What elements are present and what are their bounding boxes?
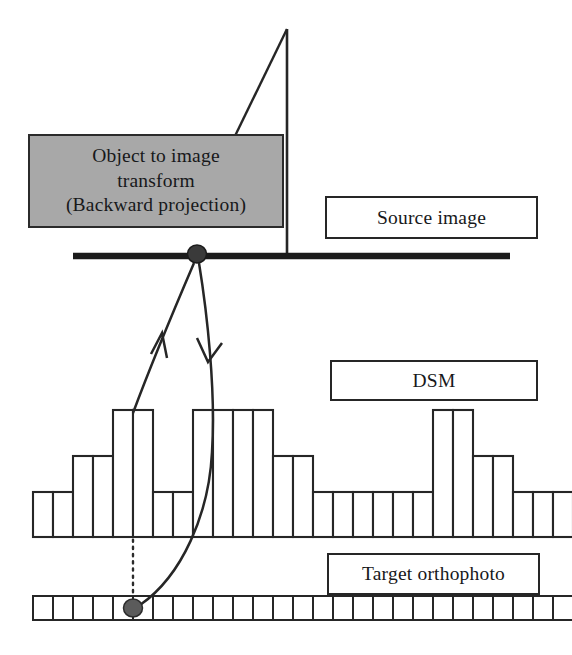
dsm-bar [133,410,153,537]
dsm-bar [113,410,133,537]
dsm-bar [73,456,93,537]
transform-box-line-2: transform [117,169,195,194]
cone-edge-line [235,29,287,136]
perspective-center-node [188,245,207,263]
dsm-bar [273,456,293,537]
orthophoto-cell [53,596,73,620]
dsm-bar [533,492,553,537]
orthophoto-cell [293,596,313,620]
orthophoto-cell [473,596,493,620]
orthophoto-cell [313,596,333,620]
dsm-bar [453,410,473,537]
dsm-bar [233,410,253,537]
dsm-bar [173,492,193,537]
orthophoto-cell [173,596,193,620]
dsm-bar [513,492,533,537]
orthophoto-cell [413,596,433,620]
source-image-label: Source image [377,207,486,229]
orthophoto-cell [533,596,553,620]
dsm-label-box: DSM [330,360,538,401]
orthophoto-cell [553,596,572,620]
dsm-bar [33,492,53,537]
dsm-bar [373,492,393,537]
orthophoto-cell [273,596,293,620]
source-image-label-box: Source image [325,196,538,239]
dsm-bar [393,492,413,537]
transform-box-line-1: Object to image [92,144,220,169]
dsm-bar [353,492,373,537]
dsm-bar [433,410,453,537]
dsm-bar [253,410,273,537]
dsm-bar [293,456,313,537]
orthophoto-cell [393,596,413,620]
transform-box-line-3: (Backward projection) [66,193,246,218]
orthophoto-cell [233,596,253,620]
orthophoto-cell [453,596,473,620]
orthophoto-cell [33,596,53,620]
figure-canvas: Object to image transform (Backward proj… [0,0,572,655]
orthophoto-cell [493,596,513,620]
orthophoto-cell [513,596,533,620]
orthophoto-cell [253,596,273,620]
orthophoto-cell [373,596,393,620]
orthophoto-cell [333,596,353,620]
dsm-bar [333,492,353,537]
dsm-bar [153,492,173,537]
orthophoto-cell [353,596,373,620]
target-orthophoto-label-box: Target orthophoto [327,553,540,595]
orthophoto-cell-strip [33,596,572,620]
object-to-image-transform-box: Object to image transform (Backward proj… [28,134,284,228]
orthophoto-cell [213,596,233,620]
dsm-bar [53,492,73,537]
ground-point-node [124,599,143,617]
dsm-bar [93,456,113,537]
orthophoto-cell [73,596,93,620]
target-orthophoto-label: Target orthophoto [362,563,505,585]
orthophoto-cell [93,596,113,620]
orthophoto-cell [193,596,213,620]
dsm-bar-chart [33,410,572,537]
dsm-bar [493,456,513,537]
dsm-bar [413,492,433,537]
orthophoto-cell [433,596,453,620]
dsm-bar [313,492,333,537]
dsm-label: DSM [413,370,456,392]
orthophoto-cell [153,596,173,620]
dsm-bar [553,492,572,537]
dsm-bar [213,410,233,537]
dsm-bar [473,456,493,537]
